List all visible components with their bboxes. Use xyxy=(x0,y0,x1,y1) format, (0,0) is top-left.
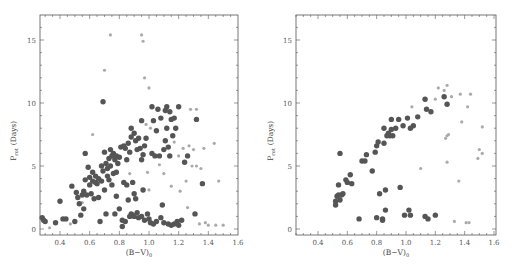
data-point-small xyxy=(140,33,143,36)
data-point-small xyxy=(173,140,176,143)
data-point-large xyxy=(173,126,178,131)
y-tick-label: 15 xyxy=(283,37,292,45)
data-point-large xyxy=(81,206,86,211)
data-point-large xyxy=(408,212,413,217)
data-point-large xyxy=(405,115,410,120)
data-point-large xyxy=(433,212,438,217)
data-point-large xyxy=(336,182,341,187)
x-tick-label: 1.0 xyxy=(400,239,411,247)
data-point-large xyxy=(154,219,159,224)
data-point-large xyxy=(133,196,138,201)
data-point-large xyxy=(139,118,144,123)
data-point-large xyxy=(172,115,177,120)
data-point-large xyxy=(425,216,430,221)
data-point-large xyxy=(163,138,168,143)
data-point-large xyxy=(160,202,165,207)
data-point-large xyxy=(164,126,169,131)
data-point-large xyxy=(444,102,449,107)
data-point-small xyxy=(190,164,193,167)
data-point-large xyxy=(130,180,135,185)
x-tick-label: 0.4 xyxy=(54,239,66,247)
y-axis-label: Prot(Days) xyxy=(9,121,19,161)
data-point-small xyxy=(457,180,460,183)
data-point-large xyxy=(103,211,108,216)
data-point-large xyxy=(131,191,136,196)
data-point-large xyxy=(115,161,120,166)
y-tick-label: 15 xyxy=(27,37,36,45)
data-point-small xyxy=(91,133,94,136)
data-point-large xyxy=(333,202,338,207)
data-point-large xyxy=(393,126,398,131)
data-point-large xyxy=(373,149,378,154)
data-point-large xyxy=(123,146,128,151)
data-point-large xyxy=(74,190,79,195)
y-axis-label: Prot(Days) xyxy=(266,121,276,161)
data-point-large xyxy=(124,157,129,162)
data-point-large xyxy=(78,212,83,217)
data-point-small xyxy=(109,33,112,36)
data-point-large xyxy=(124,182,129,187)
data-point-small xyxy=(202,147,205,150)
data-point-small xyxy=(147,86,150,89)
data-point-small xyxy=(217,180,220,183)
data-point-small xyxy=(410,105,413,108)
data-point-small xyxy=(459,93,462,96)
data-point-large xyxy=(117,154,122,159)
data-point-small xyxy=(147,188,150,191)
y-tick-label: 5 xyxy=(32,163,36,171)
data-point-large xyxy=(53,220,58,225)
data-point-large xyxy=(123,219,128,224)
data-point-small xyxy=(195,164,198,167)
data-point-large xyxy=(397,185,402,190)
data-point-large xyxy=(422,97,427,102)
data-point-large xyxy=(176,223,181,228)
x-tick-label: 0.8 xyxy=(114,239,125,247)
data-point-large xyxy=(57,199,62,204)
data-point-small xyxy=(478,148,481,151)
x-tick-label: 1.2 xyxy=(173,239,184,247)
data-point-small xyxy=(466,105,469,108)
data-point-small xyxy=(177,154,180,157)
data-point-small xyxy=(158,163,161,166)
data-point-large xyxy=(441,94,446,99)
data-point-large xyxy=(356,216,361,221)
data-point-small xyxy=(447,133,450,136)
data-point-large xyxy=(349,181,354,186)
data-point-large xyxy=(337,151,342,156)
data-point-large xyxy=(362,158,367,163)
data-point-small xyxy=(187,144,190,147)
data-point-large xyxy=(85,165,90,170)
data-point-large xyxy=(337,197,342,202)
data-point-large xyxy=(402,212,407,217)
data-point-small xyxy=(450,95,453,98)
data-point-large xyxy=(415,114,420,119)
x-tick-label: 1.6 xyxy=(488,239,500,247)
data-point-large xyxy=(140,187,145,192)
plot-frame xyxy=(40,15,238,235)
right-scatter-panel: 0.40.60.81.01.21.41.6051015(B−V)0Prot(Da… xyxy=(266,15,500,258)
data-point-small xyxy=(481,152,484,155)
data-point-large xyxy=(88,191,93,196)
data-point-small xyxy=(184,180,187,183)
data-point-small xyxy=(222,224,225,227)
y-tick-label: 10 xyxy=(27,100,36,108)
data-point-large xyxy=(383,207,388,212)
x-tick-label: 1.4 xyxy=(203,239,215,247)
x-tick-label: 1.6 xyxy=(232,239,244,247)
data-point-small xyxy=(162,172,165,175)
data-point-small xyxy=(146,171,149,174)
data-point-small xyxy=(469,93,472,96)
x-tick-label: 1.0 xyxy=(143,239,154,247)
data-point-large xyxy=(102,187,107,192)
data-point-large xyxy=(377,191,382,196)
data-point-large xyxy=(145,211,150,216)
data-point-large xyxy=(340,191,345,196)
data-point-large xyxy=(131,131,136,136)
data-point-large xyxy=(381,126,386,131)
data-point-large xyxy=(114,194,119,199)
data-point-large xyxy=(100,99,105,104)
data-point-small xyxy=(195,108,198,111)
data-point-large xyxy=(114,170,119,175)
data-point-small xyxy=(69,222,72,225)
data-point-small xyxy=(443,89,446,92)
